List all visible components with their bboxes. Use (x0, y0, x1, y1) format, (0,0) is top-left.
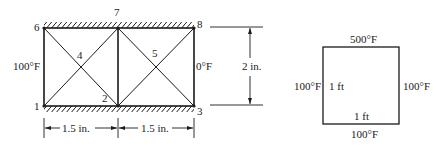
height-dimension: 2 in. (242, 60, 262, 72)
top-temp: 500°F (350, 33, 377, 45)
node-label-6: 6 (34, 21, 40, 33)
finite-element-mesh (44, 28, 194, 106)
right-temp: 100°F (403, 80, 430, 92)
mesh-nodes (42, 26, 195, 107)
node-label-7: 7 (114, 6, 120, 18)
width-dimension-2: 1.5 in. (141, 122, 169, 134)
node-label-5: 5 (152, 47, 158, 59)
left-temp: 100°F (294, 80, 321, 92)
right-boundary-temp: 0°F (196, 60, 212, 72)
node-label-3: 3 (197, 105, 203, 117)
bottom-length-label: 1 ft (354, 110, 369, 122)
node-label-2: 2 (102, 92, 108, 104)
bottom-temp: 100°F (351, 128, 378, 140)
node-label-4: 4 (77, 49, 83, 61)
width-dimension-1: 1.5 in. (62, 122, 90, 134)
node-label-8: 8 (197, 18, 203, 30)
node-label-1: 1 (34, 100, 40, 112)
side-length-label: 1 ft (329, 80, 344, 92)
diagram-canvas: 1 2 3 4 5 6 7 8 100°F 0°F 1.5 in. 1.5 in… (0, 0, 439, 146)
left-boundary-temp: 100°F (13, 60, 40, 72)
